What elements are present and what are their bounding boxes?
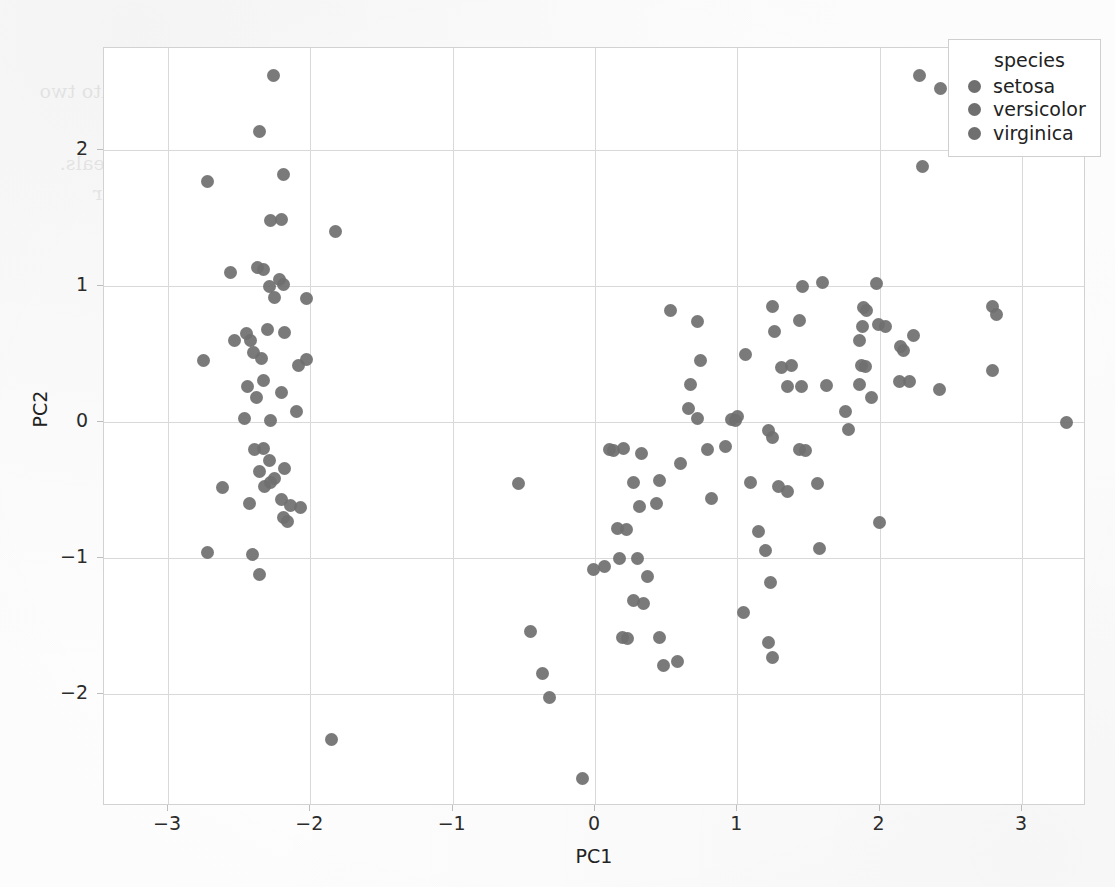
scatter-point bbox=[255, 352, 268, 365]
scatter-point bbox=[228, 334, 241, 347]
y-tick-mark bbox=[97, 149, 103, 150]
legend-swatch-circle-icon bbox=[968, 127, 981, 140]
gridline-horizontal bbox=[104, 286, 1084, 287]
y-tick-label: −2 bbox=[44, 681, 88, 703]
scatter-point bbox=[292, 359, 305, 372]
x-tick-label: 3 bbox=[991, 812, 1051, 834]
scatter-point bbox=[261, 323, 274, 336]
scatter-point bbox=[664, 304, 677, 317]
scatter-point bbox=[856, 320, 869, 333]
scatter-point bbox=[766, 651, 779, 664]
scatter-point bbox=[246, 548, 259, 561]
scatter-point bbox=[257, 374, 270, 387]
scatter-point bbox=[617, 442, 630, 455]
y-tick-label: −1 bbox=[44, 545, 88, 567]
scatter-point bbox=[691, 315, 704, 328]
gridline-horizontal bbox=[104, 694, 1084, 695]
scatter-point bbox=[811, 477, 824, 490]
scatter-point bbox=[631, 552, 644, 565]
scatter-point bbox=[701, 443, 714, 456]
scatter-point bbox=[764, 576, 777, 589]
scatter-point bbox=[258, 480, 271, 493]
scatter-point bbox=[842, 423, 855, 436]
scatter-point bbox=[916, 160, 929, 173]
y-tick-mark bbox=[97, 285, 103, 286]
y-tick-mark bbox=[97, 693, 103, 694]
scatter-point bbox=[635, 447, 648, 460]
scatter-point bbox=[263, 454, 276, 467]
scatter-point bbox=[653, 631, 666, 644]
scatter-point bbox=[637, 597, 650, 610]
scatter-point bbox=[785, 359, 798, 372]
scatter-point bbox=[766, 431, 779, 444]
x-tick-mark bbox=[594, 805, 595, 811]
scatter-point bbox=[620, 523, 633, 536]
scatter-point bbox=[762, 636, 775, 649]
scatter-point bbox=[512, 477, 525, 490]
scatter-point bbox=[224, 266, 237, 279]
scatter-point bbox=[216, 481, 229, 494]
scatter-point bbox=[839, 405, 852, 418]
scatter-point bbox=[197, 354, 210, 367]
scatter-point bbox=[990, 308, 1003, 321]
gridline-vertical bbox=[310, 48, 311, 804]
scatter-point bbox=[684, 378, 697, 391]
legend-item-label: virginica bbox=[993, 122, 1074, 145]
gridline-horizontal bbox=[104, 422, 1084, 423]
gridline-vertical bbox=[168, 48, 169, 804]
scatter-point bbox=[275, 213, 288, 226]
scatter-point bbox=[576, 772, 589, 785]
scatter-point bbox=[653, 474, 666, 487]
scatter-point bbox=[613, 552, 626, 565]
gridline-vertical bbox=[595, 48, 596, 804]
scatter-point bbox=[719, 440, 732, 453]
legend-swatch-circle-icon bbox=[968, 80, 981, 93]
scatter-point bbox=[913, 69, 926, 82]
scatter-point bbox=[587, 563, 600, 576]
legend-swatch-circle-icon bbox=[968, 103, 981, 116]
scatter-point bbox=[278, 462, 291, 475]
x-tick-label: −2 bbox=[279, 812, 339, 834]
y-tick-label: 1 bbox=[44, 273, 88, 295]
scatter-point bbox=[325, 733, 338, 746]
x-tick-mark bbox=[309, 805, 310, 811]
scatter-point bbox=[894, 340, 907, 353]
scatter-point bbox=[278, 326, 291, 339]
x-tick-mark bbox=[452, 805, 453, 811]
x-tick-label: 0 bbox=[564, 812, 624, 834]
scatter-point bbox=[277, 278, 290, 291]
scatter-point bbox=[294, 501, 307, 514]
scatter-point bbox=[873, 516, 886, 529]
legend-title: species bbox=[994, 49, 1086, 72]
scatter-point bbox=[796, 280, 809, 293]
scatter-point bbox=[290, 405, 303, 418]
scatter-point bbox=[598, 560, 611, 573]
scatter-point bbox=[201, 175, 214, 188]
scatter-point bbox=[768, 325, 781, 338]
scatter-point bbox=[621, 632, 634, 645]
legend-item-virginica[interactable]: virginica bbox=[961, 122, 1086, 145]
gridline-vertical bbox=[453, 48, 454, 804]
x-tick-mark bbox=[167, 805, 168, 811]
scatter-point bbox=[870, 277, 883, 290]
scatter-point bbox=[691, 412, 704, 425]
legend-item-setosa[interactable]: setosa bbox=[961, 75, 1086, 98]
scatter-point bbox=[253, 125, 266, 138]
y-tick-mark bbox=[97, 421, 103, 422]
gridline-vertical bbox=[1022, 48, 1023, 804]
scatter-point bbox=[267, 69, 280, 82]
scatter-point bbox=[739, 348, 752, 361]
legend-item-versicolor[interactable]: versicolor bbox=[961, 98, 1086, 121]
scatter-point bbox=[759, 544, 772, 557]
scatter-point bbox=[243, 497, 256, 510]
scatter-point bbox=[251, 261, 264, 274]
scatter-point bbox=[766, 300, 779, 313]
legend[interactable]: species setosaversicolorvirginica bbox=[948, 39, 1101, 157]
gridline-horizontal bbox=[104, 150, 1084, 151]
scatter-point bbox=[705, 492, 718, 505]
pca-scatter-figure: −3−2−10123 −2−1012 PC1 PC2 species setos… bbox=[0, 0, 1115, 887]
scatter-point bbox=[879, 320, 892, 333]
scatter-point bbox=[934, 82, 947, 95]
scatter-point bbox=[650, 497, 663, 510]
scatter-point bbox=[1060, 416, 1073, 429]
